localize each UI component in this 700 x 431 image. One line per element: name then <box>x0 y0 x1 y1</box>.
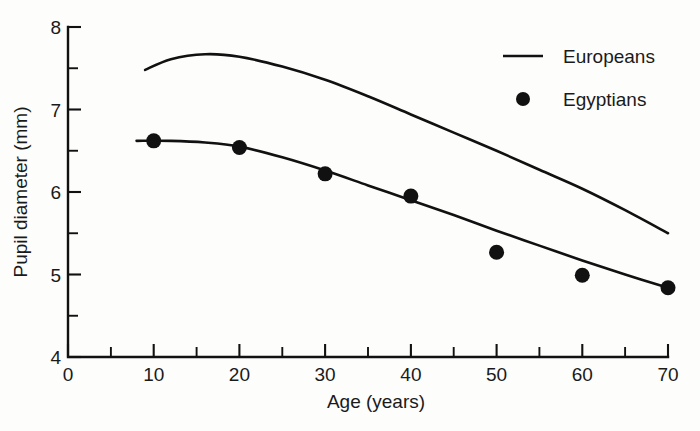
series-markers-egyptians <box>146 133 675 295</box>
y-tick-label-6: 6 <box>50 182 61 203</box>
x-tick-label-0: 0 <box>63 364 74 385</box>
y-tick-label-7: 7 <box>50 100 61 121</box>
data-point <box>146 133 161 148</box>
figure-container: 8 7 6 5 4 0 10 20 30 40 50 60 70 Age (ye… <box>0 0 700 431</box>
data-point <box>661 280 676 295</box>
x-tick-label-60: 60 <box>572 364 593 385</box>
axis-lines <box>68 27 668 357</box>
data-point <box>575 268 590 283</box>
x-tick-label-70: 70 <box>657 364 678 385</box>
data-point <box>489 245 504 260</box>
data-point <box>318 166 333 181</box>
legend-label-europeans: Europeans <box>563 46 655 67</box>
legend: Europeans Egyptians <box>503 46 655 110</box>
data-point <box>232 140 247 155</box>
x-axis-title: Age (years) <box>327 391 425 412</box>
y-tick-label-5: 5 <box>50 265 61 286</box>
x-tick-label-10: 10 <box>143 364 164 385</box>
y-tick-label-8: 8 <box>50 17 61 38</box>
x-tick-label-50: 50 <box>486 364 507 385</box>
data-point <box>403 189 418 204</box>
legend-label-egyptians: Egyptians <box>563 89 646 110</box>
x-tick-label-30: 30 <box>315 364 336 385</box>
x-tick-label-40: 40 <box>400 364 421 385</box>
legend-circle-icon <box>516 92 530 106</box>
y-axis-title: Pupil diameter (mm) <box>10 106 31 277</box>
pupil-diameter-chart: 8 7 6 5 4 0 10 20 30 40 50 60 70 Age (ye… <box>0 0 700 431</box>
x-tick-label-20: 20 <box>229 364 250 385</box>
series-curve-egyptians <box>137 141 668 288</box>
x-axis-minor-ticks <box>111 347 625 357</box>
y-axis-major-ticks <box>68 27 81 357</box>
y-tick-label-4: 4 <box>50 347 61 368</box>
